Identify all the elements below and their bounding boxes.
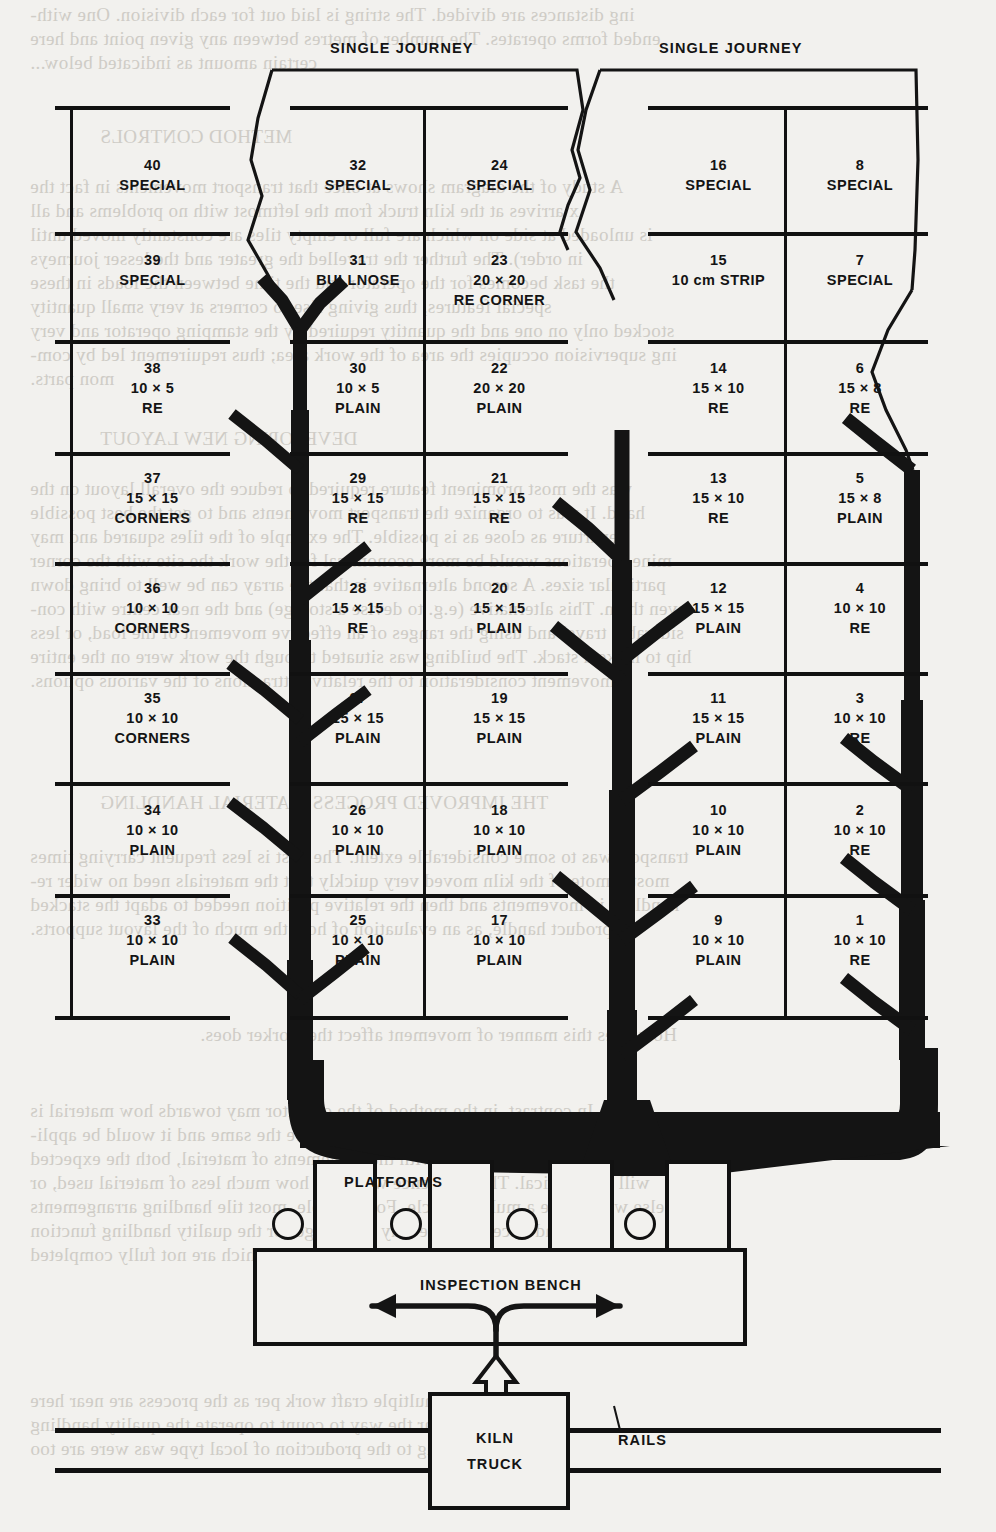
rails-leader (0, 0, 996, 1532)
diagram-page: ing distances are divided. The string is… (0, 0, 996, 1532)
